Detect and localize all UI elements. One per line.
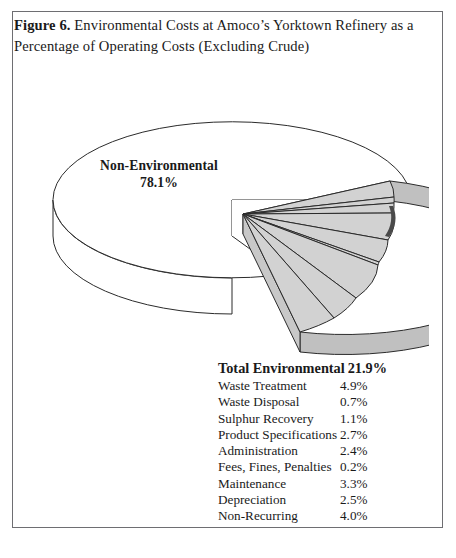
legend-row: Sulphur Recovery 1.1% (218, 411, 423, 427)
legend-row: Non-Recurring 4.0% (218, 508, 423, 524)
legend-item-name: Waste Treatment (218, 378, 340, 394)
legend-item-value: 1.1% (340, 411, 367, 427)
legend-item-name: Non-Recurring (218, 508, 340, 524)
legend-item-value: 4.0% (340, 508, 367, 524)
non-environmental-label: Non-Environmental 78.1% (84, 157, 234, 191)
legend-row: Waste Disposal 0.7% (218, 394, 423, 410)
legend-title-text: Total Environmental (218, 360, 345, 376)
legend-item-value: 2.7% (340, 427, 367, 443)
non-environmental-name: Non-Environmental (84, 157, 234, 174)
legend-item-value: 2.4% (340, 443, 367, 459)
legend-row: Waste Treatment 4.9% (218, 378, 423, 394)
figure-caption: Figure 6. Environmental Costs at Amoco’s… (14, 15, 418, 57)
legend-row: Fees, Fines, Penalties 0.2% (218, 459, 423, 475)
figure-number-label: Figure 6. (14, 17, 71, 33)
legend-item-name: Administration (218, 443, 340, 459)
legend-row: Depreciation 2.5% (218, 492, 423, 508)
legend-item-name: Sulphur Recovery (218, 411, 340, 427)
legend-item-name: Waste Disposal (218, 394, 340, 410)
legend-row: Product Specifications 2.7% (218, 427, 423, 443)
legend-item-value: 4.9% (340, 378, 367, 394)
legend-item-value: 0.7% (340, 394, 367, 410)
legend: Total Environmental21.9% Waste Treatment… (218, 359, 423, 525)
legend-row: Administration 2.4% (218, 443, 423, 459)
legend-row: Maintenance 3.3% (218, 476, 423, 492)
legend-item-name: Depreciation (218, 492, 340, 508)
legend-item-name: Fees, Fines, Penalties (218, 459, 340, 475)
legend-item-name: Product Specifications (218, 427, 340, 443)
legend-item-name: Maintenance (218, 476, 340, 492)
legend-item-value: 0.2% (340, 459, 367, 475)
legend-item-value: 3.3% (340, 476, 367, 492)
legend-title: Total Environmental21.9% (218, 359, 423, 377)
legend-item-value: 2.5% (340, 492, 367, 508)
pie-chart (0, 66, 429, 356)
figure-caption-text: Environmental Costs at Amoco’s Yorktown … (14, 17, 414, 54)
non-environmental-value: 78.1% (84, 174, 234, 191)
legend-total-value: 21.9% (348, 360, 387, 376)
